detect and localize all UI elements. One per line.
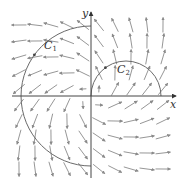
vector-arrow [31, 99, 40, 111]
vector-arrow [65, 130, 69, 145]
vector-arrow [95, 35, 104, 47]
vector-arrow [129, 18, 133, 32]
vector-arrow [18, 146, 20, 161]
vector-arrow [112, 34, 117, 48]
vector-arrow [156, 135, 170, 139]
vector-arrow [49, 114, 52, 129]
vector-arrow [162, 34, 164, 49]
vector-arrow [146, 18, 148, 33]
vector-arrow [60, 38, 74, 43]
vector-arrow [77, 37, 89, 46]
vector-arrow [76, 70, 90, 77]
vector-arrow [111, 82, 118, 95]
curve-direction-marker [33, 53, 36, 56]
vector-arrow [64, 162, 71, 175]
vector-arrow [16, 114, 23, 127]
vector-arrow [78, 147, 87, 159]
vector-arrow [108, 102, 122, 108]
vector-arrow [93, 148, 105, 157]
vector-arrow [13, 84, 25, 94]
vector-arrow [141, 101, 153, 110]
vector-arrow [12, 40, 27, 42]
vector-arrow [160, 66, 167, 79]
vector-arrow [17, 130, 21, 144]
vector-arrow [161, 50, 165, 64]
vector-arrow [93, 133, 105, 141]
vector-arrow [29, 84, 41, 93]
vector-arrow [108, 135, 123, 139]
vector-arrow [44, 23, 58, 27]
vector-arrow [77, 53, 90, 61]
vector-arrow [28, 70, 42, 76]
vector-arrow [130, 34, 132, 49]
curve-direction-marker [104, 66, 107, 69]
vector-arrow [47, 99, 55, 112]
vector-arrow [125, 101, 138, 109]
vector-arrow [156, 118, 169, 125]
vector-arrow [12, 55, 26, 59]
vector-arrow [44, 71, 58, 75]
vector-arrow [108, 166, 121, 173]
vector-arrow [140, 118, 154, 123]
vector-arrow [45, 85, 57, 94]
vector-arrow [112, 18, 119, 31]
vector-arrow [32, 114, 37, 128]
vector-arrow [77, 20, 89, 29]
vector-arrow [142, 83, 151, 95]
vector-arrow [28, 24, 43, 26]
vector-arrow [79, 131, 87, 143]
vector-arrow [60, 85, 73, 92]
vector-arrow [34, 162, 36, 177]
vector-arrow [64, 146, 70, 160]
vector-arrow [94, 19, 103, 31]
y-axis-label: y [82, 8, 88, 19]
vector-arrow [92, 118, 105, 125]
curve-label-c2: C2 [117, 64, 130, 77]
vector-field-diagram [0, 0, 183, 187]
vector-arrow [95, 51, 103, 64]
vector-arrow [157, 100, 169, 109]
curve-label-c1: C1 [44, 40, 57, 53]
x-axis-label: x [170, 99, 176, 110]
vector-arrow [124, 152, 139, 155]
vector-arrow [60, 55, 75, 58]
vector-arrow [124, 167, 138, 171]
vector-arrow [140, 136, 155, 138]
vector-arrow [60, 22, 73, 29]
vector-arrow [146, 50, 149, 65]
vector-arrow [140, 168, 155, 170]
vector-arrow [124, 119, 139, 122]
vector-arrow [156, 152, 171, 154]
vector-arrow [49, 162, 53, 176]
vector-arrow [127, 83, 136, 95]
vector-arrow [108, 150, 122, 156]
vector-arrow [93, 164, 105, 173]
vector-arrow [80, 114, 87, 127]
vector-arrow [64, 98, 70, 112]
